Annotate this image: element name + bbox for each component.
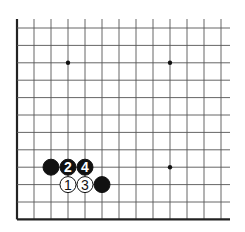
white-stone: 1 xyxy=(60,177,76,193)
star-point-icon xyxy=(168,165,172,169)
move-number-label: 3 xyxy=(81,177,89,193)
black-stone: 4 xyxy=(77,159,93,175)
black-stone xyxy=(43,159,59,175)
move-number-label: 2 xyxy=(64,159,72,175)
black-stone xyxy=(94,177,110,193)
star-point-icon xyxy=(168,61,172,65)
move-number-label: 1 xyxy=(64,177,72,193)
white-stone: 3 xyxy=(77,177,93,193)
black-stone: 2 xyxy=(60,159,76,175)
grid-lines xyxy=(17,19,230,219)
move-number-label: 4 xyxy=(81,159,89,175)
stones: 2413 xyxy=(43,159,110,192)
star-point-icon xyxy=(66,61,70,65)
go-board: 2413 xyxy=(0,0,245,232)
